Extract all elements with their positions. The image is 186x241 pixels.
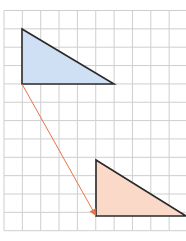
arrow-shaft [22,84,93,210]
translated-triangle [96,160,186,216]
original-triangle [22,29,114,84]
translation-diagram [0,0,186,241]
